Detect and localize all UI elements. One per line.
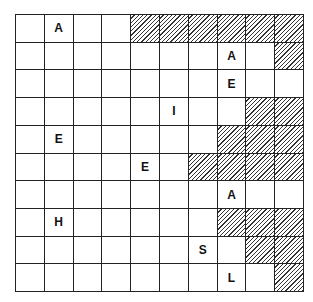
blocked-cell [218, 209, 247, 237]
grid-cell[interactable]: E [218, 70, 247, 98]
grid-cell[interactable] [160, 181, 189, 209]
grid-cell[interactable] [16, 15, 45, 43]
grid-cell[interactable] [102, 126, 131, 154]
grid-cell[interactable] [45, 154, 74, 182]
grid-cell[interactable] [74, 98, 103, 126]
grid-cell[interactable]: H [45, 209, 74, 237]
blocked-cell [275, 237, 304, 265]
grid-cell[interactable] [74, 70, 103, 98]
grid-cell[interactable] [45, 237, 74, 265]
grid-cell[interactable] [102, 264, 131, 292]
grid-cell[interactable] [74, 154, 103, 182]
blocked-cell [246, 126, 275, 154]
grid-cell[interactable] [45, 181, 74, 209]
grid-cell[interactable] [131, 237, 160, 265]
grid-cell[interactable] [218, 98, 247, 126]
blocked-cell [131, 15, 160, 43]
grid-cell[interactable]: A [218, 43, 247, 71]
grid-cell[interactable] [102, 98, 131, 126]
grid-cell[interactable] [189, 43, 218, 71]
grid-cell[interactable] [246, 43, 275, 71]
blocked-cell [275, 15, 304, 43]
blocked-cell [160, 15, 189, 43]
blocked-cell [275, 154, 304, 182]
blocked-cell [218, 15, 247, 43]
grid-cell[interactable] [16, 181, 45, 209]
grid-cell[interactable] [74, 209, 103, 237]
grid-cell[interactable] [16, 154, 45, 182]
grid-cell[interactable] [189, 264, 218, 292]
blocked-cell [218, 154, 247, 182]
blocked-cell [275, 126, 304, 154]
grid-cell[interactable]: E [45, 126, 74, 154]
grid-cell[interactable] [189, 70, 218, 98]
grid-cell[interactable] [16, 43, 45, 71]
grid-cell[interactable] [74, 264, 103, 292]
grid-cell[interactable] [45, 264, 74, 292]
grid-cell[interactable] [45, 43, 74, 71]
grid-cell[interactable] [131, 209, 160, 237]
grid-cell[interactable] [160, 70, 189, 98]
grid-cell[interactable] [160, 237, 189, 265]
grid-cell[interactable] [74, 181, 103, 209]
grid-cell[interactable] [102, 70, 131, 98]
grid-cell[interactable] [160, 43, 189, 71]
grid-cell[interactable] [16, 126, 45, 154]
grid-cell[interactable] [16, 237, 45, 265]
blocked-cell [246, 98, 275, 126]
grid-cell[interactable] [189, 98, 218, 126]
grid-cell[interactable] [131, 264, 160, 292]
grid-cell[interactable] [45, 70, 74, 98]
grid-cell[interactable] [102, 181, 131, 209]
grid-cell[interactable] [131, 98, 160, 126]
grid-cell[interactable] [74, 43, 103, 71]
grid-cell[interactable] [160, 209, 189, 237]
puzzle-grid: AAEIEEAHSL [15, 14, 304, 292]
grid-cell[interactable] [131, 126, 160, 154]
grid-cell[interactable]: A [45, 15, 74, 43]
grid-cell[interactable]: I [160, 98, 189, 126]
blocked-cell [275, 209, 304, 237]
grid-cell[interactable]: A [218, 181, 247, 209]
blocked-cell [275, 264, 304, 292]
grid-cell[interactable] [74, 237, 103, 265]
grid-cell[interactable] [189, 209, 218, 237]
grid-cell[interactable]: L [218, 264, 247, 292]
blocked-cell [189, 15, 218, 43]
grid-cell[interactable] [102, 43, 131, 71]
grid-cell[interactable] [218, 237, 247, 265]
grid-cell[interactable] [102, 15, 131, 43]
grid-cell[interactable] [74, 126, 103, 154]
blocked-cell [246, 237, 275, 265]
grid-cell[interactable]: E [131, 154, 160, 182]
blocked-cell [246, 15, 275, 43]
grid-cell[interactable] [131, 43, 160, 71]
grid-cell[interactable] [102, 154, 131, 182]
grid-cell[interactable] [160, 264, 189, 292]
blocked-cell [246, 209, 275, 237]
grid-cell[interactable] [102, 209, 131, 237]
grid-cell[interactable] [16, 98, 45, 126]
blocked-cell [275, 98, 304, 126]
grid-cell[interactable] [102, 237, 131, 265]
grid-cell[interactable] [16, 264, 45, 292]
grid-cell[interactable] [74, 15, 103, 43]
blocked-cell [275, 43, 304, 71]
grid-cell[interactable] [246, 264, 275, 292]
grid-cell[interactable]: S [189, 237, 218, 265]
grid-cell[interactable] [45, 98, 74, 126]
grid-cell[interactable] [131, 70, 160, 98]
grid-cell[interactable] [246, 70, 275, 98]
grid-cell[interactable] [160, 126, 189, 154]
blocked-cell [218, 126, 247, 154]
grid-cell[interactable] [160, 154, 189, 182]
blocked-cell [246, 154, 275, 182]
grid-cell[interactable] [16, 209, 45, 237]
grid-cell[interactable] [16, 70, 45, 98]
grid-cell[interactable] [189, 126, 218, 154]
grid-cell[interactable] [275, 70, 304, 98]
grid-cell[interactable] [189, 181, 218, 209]
grid-cell[interactable] [246, 181, 275, 209]
grid-cell[interactable] [131, 181, 160, 209]
grid-cell[interactable] [275, 181, 304, 209]
